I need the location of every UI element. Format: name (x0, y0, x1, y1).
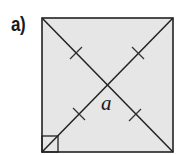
square-diagram: a (0, 0, 180, 155)
angle-label: a (101, 91, 112, 115)
